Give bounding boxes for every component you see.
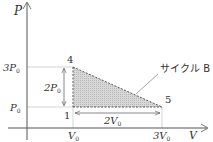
pv-diagram: P V 3P0 P0 V0 3V0 4 1 5 2P0 2V0 サイクル B: [0, 0, 213, 142]
dim-2p0-label: 2P0: [43, 82, 61, 94]
x-axis-label: V: [189, 129, 198, 142]
cycle-leader-line: [136, 74, 158, 94]
x-tick-v0: V0: [68, 130, 79, 142]
y-tick-3p0: 3P0: [3, 62, 20, 74]
dim-2v0-label: 2V0: [103, 115, 122, 127]
point-5-label: 5: [165, 94, 171, 105]
point-4-label: 4: [67, 54, 73, 65]
point-1-label: 1: [64, 110, 70, 121]
cycle-b-label: サイクル B: [160, 63, 210, 74]
y-tick-p0: P0: [9, 102, 21, 114]
x-tick-3v0: 3V0: [153, 130, 171, 142]
y-axis-label: P: [13, 4, 23, 18]
